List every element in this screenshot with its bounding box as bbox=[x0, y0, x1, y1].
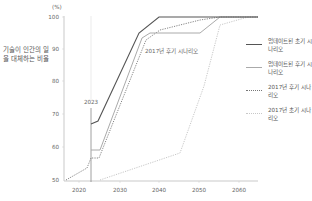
legend-item-updated-early: 업데이트된 초기 시나리오 bbox=[246, 38, 312, 60]
series-2017-early bbox=[100, 17, 258, 180]
legend-item-2017-early: 2017년 초기 시나리오 bbox=[246, 107, 312, 129]
y-tick-80: 80 bbox=[52, 78, 60, 84]
legend-label: 2017년 후기 시나리오 bbox=[268, 84, 312, 99]
x-tick-2020: 2020 bbox=[72, 187, 87, 193]
legend-swatch-dotted-dark bbox=[246, 90, 262, 91]
legend-label: 2017년 초기 시나리오 bbox=[268, 107, 312, 122]
y-tick-60: 60 bbox=[52, 144, 60, 150]
y-unit-label: (%) bbox=[52, 4, 62, 10]
legend-item-2017-late: 2017년 후기 시나리오 bbox=[246, 84, 312, 106]
legend-label: 업데이트된 초기 시나리오 bbox=[268, 38, 312, 53]
legend-item-updated-late: 업데이트된 후기 시나리오 bbox=[246, 61, 312, 83]
legend-swatch-solid-light bbox=[246, 67, 262, 68]
legend-swatch-dotted-light bbox=[246, 113, 262, 114]
x-tick-2060: 2060 bbox=[232, 187, 247, 193]
y-tick-70: 70 bbox=[52, 111, 60, 117]
x-tick-2050: 2050 bbox=[192, 187, 207, 193]
x-tick-2040: 2040 bbox=[152, 187, 167, 193]
legend-label: 업데이트된 후기 시나리오 bbox=[268, 61, 312, 76]
y-tick-50: 50 bbox=[52, 177, 60, 183]
annotation-2017-late: 2017년 후기 시나리오 bbox=[145, 47, 198, 55]
y-tick-100: 100 bbox=[48, 14, 59, 20]
legend-swatch-solid-dark bbox=[246, 44, 262, 45]
x-tick-2030: 2030 bbox=[113, 187, 128, 193]
y-tick-90: 90 bbox=[52, 46, 60, 52]
